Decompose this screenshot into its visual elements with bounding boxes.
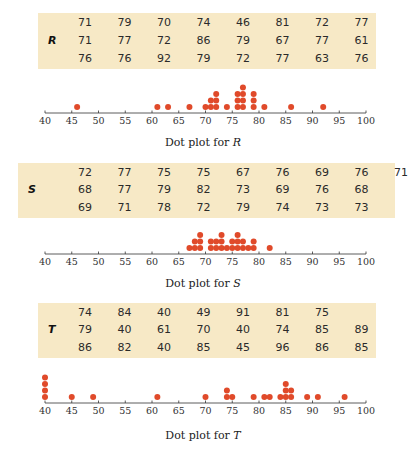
table-cell: 79 xyxy=(231,34,255,47)
x-tick-label: 50 xyxy=(92,405,104,416)
x-tick-label: 50 xyxy=(92,115,104,126)
x-tick-label: 95 xyxy=(333,256,345,267)
data-dot xyxy=(304,394,310,400)
table-cell: 86 xyxy=(310,341,334,354)
table-cell: 77 xyxy=(310,34,334,47)
x-tick-label: 40 xyxy=(39,256,51,267)
data-dot xyxy=(219,245,225,251)
table-cell: 76 xyxy=(350,52,374,65)
x-tick-label: 85 xyxy=(280,405,292,416)
dot-plot-t: 404550556065707580859095100 xyxy=(0,365,406,425)
data-dot xyxy=(208,245,214,251)
table-cell: 72 xyxy=(73,166,97,179)
data-dot xyxy=(69,394,75,400)
table-cell: 63 xyxy=(310,52,334,65)
data-dot xyxy=(219,239,225,245)
x-tick-label: 55 xyxy=(119,115,131,126)
dot-plot-s-svg: 404550556065707580859095100 xyxy=(0,221,406,276)
table-cell: 69 xyxy=(310,166,334,179)
table-cell: 73 xyxy=(231,183,255,196)
table-label-r: R xyxy=(48,34,56,47)
caption-s-var: S xyxy=(233,277,241,290)
table-cell: 68 xyxy=(73,183,97,196)
table-cell: 72 xyxy=(231,52,255,65)
table-cell: 96 xyxy=(271,341,295,354)
table-cell: 74 xyxy=(192,16,216,29)
table-cell: 74 xyxy=(271,323,295,336)
table-cell: 61 xyxy=(350,34,374,47)
table-cell: 73 xyxy=(350,201,374,214)
table-cell: 68 xyxy=(350,183,374,196)
table-cell: 71 xyxy=(73,34,97,47)
table-cell: 45 xyxy=(231,341,255,354)
table-cell: 72 xyxy=(310,16,334,29)
table-cell: 67 xyxy=(271,34,295,47)
data-dot xyxy=(229,394,235,400)
data-dot xyxy=(315,394,321,400)
x-tick-label: 85 xyxy=(280,256,292,267)
data-dot xyxy=(213,245,219,251)
data-dot xyxy=(240,245,246,251)
table-cell: 79 xyxy=(73,323,97,336)
table-cell: 82 xyxy=(192,183,216,196)
table-cell: 76 xyxy=(310,183,334,196)
data-dot xyxy=(235,98,241,104)
table-cell: 77 xyxy=(350,16,374,29)
table-cell: 84 xyxy=(113,306,137,319)
x-tick-label: 100 xyxy=(357,405,375,416)
table-cell: 40 xyxy=(152,341,176,354)
x-tick-label: 55 xyxy=(119,405,131,416)
table-cell: 72 xyxy=(152,34,176,47)
data-dot xyxy=(213,98,219,104)
table-label-s: S xyxy=(28,183,36,196)
data-dot xyxy=(165,104,171,110)
table-cell: 85 xyxy=(192,341,216,354)
data-dot xyxy=(229,245,235,251)
data-dot xyxy=(288,394,294,400)
table-cell: 67 xyxy=(231,166,255,179)
data-dot xyxy=(203,104,209,110)
data-dot xyxy=(251,239,257,245)
x-tick-label: 80 xyxy=(253,256,265,267)
table-cell: 74 xyxy=(73,306,97,319)
caption-s-prefix: Dot plot for xyxy=(165,277,233,290)
data-dot xyxy=(240,104,246,110)
data-dot xyxy=(186,245,192,251)
data-dot xyxy=(251,245,257,251)
x-tick-label: 40 xyxy=(39,405,51,416)
x-tick-label: 90 xyxy=(306,256,318,267)
table-cell: 81 xyxy=(271,16,295,29)
table-cell: 79 xyxy=(113,16,137,29)
x-tick-label: 45 xyxy=(66,115,78,126)
data-dot xyxy=(235,239,241,245)
table-cell: 85 xyxy=(310,323,334,336)
x-tick-label: 75 xyxy=(226,115,238,126)
table-cell: 46 xyxy=(231,16,255,29)
data-table-s: S 72777575677669767168777982736976686971… xyxy=(18,163,395,218)
data-table-r: R 71797074468172777177728679677761767692… xyxy=(38,13,376,69)
dot-plot-r-svg: 404550556065707580859095100 xyxy=(0,80,406,135)
data-dot xyxy=(288,104,294,110)
data-dot xyxy=(283,381,289,387)
table-cell: 82 xyxy=(113,341,137,354)
data-dot xyxy=(235,91,241,97)
table-cell: 75 xyxy=(192,166,216,179)
x-tick-label: 75 xyxy=(226,256,238,267)
data-dot xyxy=(320,104,326,110)
data-dot xyxy=(277,394,283,400)
data-dot xyxy=(245,245,251,251)
x-tick-label: 95 xyxy=(333,115,345,126)
data-dot xyxy=(197,232,203,238)
data-dot xyxy=(235,232,241,238)
x-tick-label: 65 xyxy=(173,256,185,267)
table-cell: 75 xyxy=(310,306,334,319)
data-dot xyxy=(154,104,160,110)
table-cell: 85 xyxy=(350,341,374,354)
caption-t-var: T xyxy=(233,429,240,442)
data-dot xyxy=(42,388,48,394)
table-cell: 81 xyxy=(271,306,295,319)
data-dot xyxy=(192,239,198,245)
data-dot xyxy=(251,104,257,110)
x-tick-label: 90 xyxy=(306,405,318,416)
table-label-t: T xyxy=(48,323,56,336)
